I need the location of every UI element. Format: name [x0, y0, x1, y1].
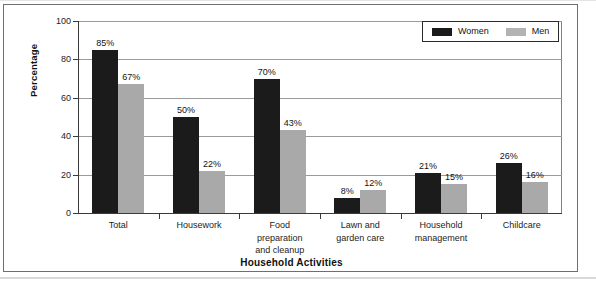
x-tick-label-line: Childcare — [481, 219, 562, 232]
y-tick-label: 80 — [61, 55, 71, 64]
x-tick-label: Foodpreparationand cleanup — [239, 219, 320, 257]
bar-women[interactable]: 85% — [92, 50, 118, 213]
bar-value-label: 8% — [341, 186, 354, 196]
x-tick-label-line: Household — [401, 219, 482, 232]
gridline — [78, 59, 562, 60]
gridline — [78, 136, 562, 137]
y-tick — [73, 21, 78, 22]
legend-entry-men[interactable]: Men — [506, 27, 550, 36]
x-tick-label: Lawn andgarden care — [320, 219, 401, 244]
y-tick-label: 100 — [56, 17, 71, 26]
plot-frame — [78, 21, 562, 214]
y-axis-line — [78, 21, 79, 214]
bar-women[interactable]: 21% — [415, 173, 441, 213]
bar-group: 21%15% — [415, 20, 467, 213]
bar-group: 26%16% — [496, 20, 548, 213]
bar-value-label: 12% — [364, 178, 382, 188]
x-tick-label-line: Total — [78, 219, 159, 232]
plot-area: 020406080100 85%67%50%22%70%43%8%12%21%1… — [78, 21, 562, 214]
chart-figure: Percentage Household Activities 02040608… — [3, 4, 578, 272]
gridline — [78, 175, 562, 176]
bar-group: 85%67% — [92, 20, 144, 213]
legend-label: Men — [532, 27, 550, 36]
y-tick — [73, 175, 78, 176]
chart-legend: WomenMen — [422, 21, 559, 42]
scan-artifact-bottom — [0, 277, 596, 279]
bar-group: 70%43% — [254, 20, 306, 213]
y-tick-label: 60 — [61, 93, 71, 102]
bar-men[interactable]: 12% — [360, 190, 386, 213]
bar-value-label: 50% — [177, 105, 195, 115]
bar-value-label: 26% — [500, 151, 518, 161]
bar-value-label: 15% — [445, 172, 463, 182]
y-tick — [73, 59, 78, 60]
bar-men[interactable]: 22% — [199, 171, 225, 213]
bar-value-label: 67% — [122, 72, 140, 82]
bar-women[interactable]: 70% — [254, 79, 280, 213]
gridline — [78, 98, 562, 99]
bar-value-label: 43% — [284, 118, 302, 128]
bar-value-label: 16% — [526, 170, 544, 180]
x-tick-label-line: management — [401, 232, 482, 245]
bar-group: 8%12% — [334, 20, 386, 213]
x-tick-label-line: preparation — [239, 232, 320, 245]
x-tick-label-line: Lawn and — [320, 219, 401, 232]
legend-label: Women — [458, 27, 489, 36]
bar-value-label: 21% — [419, 161, 437, 171]
y-tick — [73, 136, 78, 137]
x-tick-label-line: and cleanup — [239, 244, 320, 257]
y-axis-title: Percentage — [28, 44, 39, 97]
bar-men[interactable]: 15% — [441, 184, 467, 213]
bar-value-label: 85% — [96, 38, 114, 48]
bar-women[interactable]: 26% — [496, 163, 522, 213]
y-tick — [73, 213, 78, 214]
x-tick-label: Childcare — [481, 219, 562, 232]
y-tick-label: 40 — [61, 132, 71, 141]
legend-swatch-icon — [432, 28, 452, 36]
x-tick-label-line: Food — [239, 219, 320, 232]
x-tick-label: Housework — [159, 219, 240, 232]
x-tick-label-line: Housework — [159, 219, 240, 232]
bar-value-label: 70% — [258, 67, 276, 77]
bar-men[interactable]: 43% — [280, 130, 306, 213]
bar-group: 50%22% — [173, 20, 225, 213]
scan-artifact-top — [0, 0, 596, 1]
x-tick-label-line: garden care — [320, 232, 401, 245]
bar-men[interactable]: 16% — [522, 182, 548, 213]
x-axis-title: Household Activities — [4, 257, 579, 268]
bar-women[interactable]: 8% — [334, 198, 360, 213]
bar-women[interactable]: 50% — [173, 117, 199, 213]
y-tick-label: 0 — [66, 209, 71, 218]
legend-swatch-icon — [506, 28, 526, 36]
x-tick-label: Total — [78, 219, 159, 232]
bar-value-label: 22% — [203, 159, 221, 169]
x-tick-label: Householdmanagement — [401, 219, 482, 244]
y-tick — [73, 98, 78, 99]
legend-entry-women[interactable]: Women — [432, 27, 489, 36]
bar-men[interactable]: 67% — [118, 84, 144, 213]
y-tick-label: 20 — [61, 170, 71, 179]
